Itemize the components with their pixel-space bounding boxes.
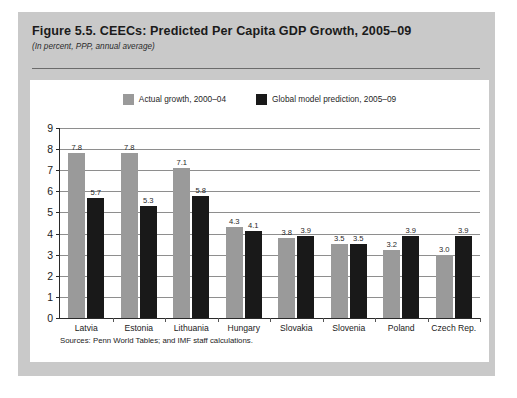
y-tick-mark xyxy=(56,170,60,171)
bar-group: 7.85.3Estonia xyxy=(121,128,157,318)
y-tick-label: 0 xyxy=(47,313,53,324)
figure-header: Figure 5.5. CEECs: Predicted Per Capita … xyxy=(32,24,480,52)
y-tick-mark xyxy=(56,149,60,150)
y-tick-label: 5 xyxy=(47,207,53,218)
x-axis-category-label: Latvia xyxy=(75,323,98,333)
y-tick-mark xyxy=(56,128,60,129)
chart-legend: Actual growth, 2000–04 Global model pred… xyxy=(30,94,489,105)
bar-value-label: 3.9 xyxy=(300,226,311,235)
bar[interactable]: 7.8 xyxy=(68,153,85,318)
y-axis-line xyxy=(59,128,60,319)
x-axis-category-label: Slovakia xyxy=(280,323,312,333)
x-axis-category-label: Lithuania xyxy=(174,323,209,333)
y-tick-label: 7 xyxy=(47,165,53,176)
figure-title: Figure 5.5. CEECs: Predicted Per Capita … xyxy=(32,24,480,39)
figure-card: Figure 5.5. CEECs: Predicted Per Capita … xyxy=(18,12,495,376)
x-tick-mark xyxy=(165,318,166,322)
source-note: Sources: Penn World Tables; and IMF staf… xyxy=(60,336,253,346)
x-axis-category-label: Czech Rep. xyxy=(431,323,476,333)
bar-group: 3.53.5Slovenia xyxy=(331,128,367,318)
bar-value-label: 5.3 xyxy=(143,196,154,205)
legend-label-actual: Actual growth, 2000–04 xyxy=(139,94,226,105)
bar-value-label: 7.1 xyxy=(176,158,187,167)
bar[interactable]: 3.9 xyxy=(402,236,419,318)
bar[interactable]: 3.0 xyxy=(436,255,453,318)
bar-value-label: 3.5 xyxy=(334,234,345,243)
legend-swatch-actual xyxy=(123,94,134,105)
plot-area: 0123456789 7.85.7Latvia7.85.3Estonia7.15… xyxy=(60,128,480,318)
x-tick-mark xyxy=(113,318,114,322)
bar[interactable]: 4.1 xyxy=(245,231,262,318)
bar[interactable]: 7.8 xyxy=(121,153,138,318)
bar[interactable]: 5.3 xyxy=(140,206,157,318)
bar-group: 3.83.9Slovakia xyxy=(278,128,314,318)
y-tick-mark xyxy=(56,234,60,235)
bar[interactable]: 4.3 xyxy=(226,227,243,318)
bar-value-label: 5.7 xyxy=(90,188,101,197)
bar[interactable]: 3.9 xyxy=(455,236,472,318)
bar[interactable]: 5.7 xyxy=(87,198,104,318)
figure-subtitle: (In percent, PPP, annual average) xyxy=(32,42,480,52)
bar[interactable]: 7.1 xyxy=(173,168,190,318)
header-divider xyxy=(32,68,480,69)
y-tick-label: 3 xyxy=(47,249,53,260)
bar[interactable]: 5.8 xyxy=(192,196,209,318)
bar[interactable]: 3.5 xyxy=(331,244,348,318)
bar-value-label: 3.9 xyxy=(458,226,469,235)
y-tick-label: 2 xyxy=(47,271,53,282)
bar-value-label: 7.8 xyxy=(124,143,135,152)
y-tick-mark xyxy=(56,276,60,277)
legend-label-prediction: Global model prediction, 2005–09 xyxy=(272,94,396,105)
y-tick-mark xyxy=(56,255,60,256)
bar-group: 3.23.9Poland xyxy=(383,128,419,318)
bar-value-label: 4.3 xyxy=(229,217,240,226)
bar-group: 7.15.8Lithuania xyxy=(173,128,209,318)
bar[interactable]: 3.9 xyxy=(297,236,314,318)
y-tick-mark xyxy=(56,318,60,319)
bar[interactable]: 3.5 xyxy=(350,244,367,318)
bar[interactable]: 3.8 xyxy=(278,238,295,318)
legend-swatch-prediction xyxy=(256,94,267,105)
bar-value-label: 4.1 xyxy=(248,221,259,230)
y-tick-label: 9 xyxy=(47,123,53,134)
y-tick-mark xyxy=(56,297,60,298)
y-tick-mark xyxy=(56,191,60,192)
y-tick-label: 1 xyxy=(47,292,53,303)
bar-group: 3.03.9Czech Rep. xyxy=(436,128,472,318)
legend-entry-prediction[interactable]: Global model prediction, 2005–09 xyxy=(256,94,396,105)
x-axis-category-label: Poland xyxy=(388,323,415,333)
y-tick-label: 6 xyxy=(47,186,53,197)
bar-value-label: 3.9 xyxy=(405,226,416,235)
bar-value-label: 3.5 xyxy=(353,234,364,243)
legend-entry-actual[interactable]: Actual growth, 2000–04 xyxy=(123,94,226,105)
bar-value-label: 3.8 xyxy=(281,228,292,237)
bar-value-label: 3.0 xyxy=(439,245,450,254)
bar-group: 4.34.1Hungary xyxy=(226,128,262,318)
bar[interactable]: 3.2 xyxy=(383,250,400,318)
x-axis-category-label: Slovenia xyxy=(332,323,365,333)
x-tick-mark xyxy=(480,318,481,322)
x-axis-category-label: Hungary xyxy=(228,323,260,333)
y-tick-mark xyxy=(56,212,60,213)
bar-group: 7.85.7Latvia xyxy=(68,128,104,318)
y-tick-label: 8 xyxy=(47,144,53,155)
x-tick-mark xyxy=(375,318,376,322)
bar-value-label: 5.8 xyxy=(195,186,206,195)
y-tick-label: 4 xyxy=(47,228,53,239)
x-tick-mark xyxy=(218,318,219,322)
bar-value-label: 7.8 xyxy=(71,143,82,152)
chart-panel: Actual growth, 2000–04 Global model pred… xyxy=(30,80,489,362)
x-axis-category-label: Estonia xyxy=(124,323,153,333)
x-tick-mark xyxy=(323,318,324,322)
bar-value-label: 3.2 xyxy=(386,240,397,249)
x-tick-mark xyxy=(428,318,429,322)
x-tick-mark xyxy=(270,318,271,322)
